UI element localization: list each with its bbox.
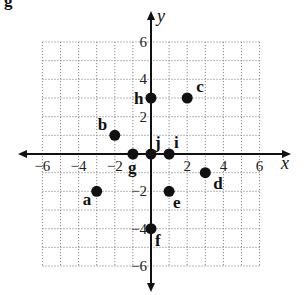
point-label-d: d <box>213 174 223 193</box>
y-tick-label: −4 <box>131 221 147 237</box>
cut-off-header-text: g <box>4 0 13 10</box>
point-b <box>109 130 120 141</box>
x-axis-label: x <box>280 153 289 173</box>
y-tick-label: 6 <box>140 34 148 50</box>
y-tick-label: 2 <box>140 109 148 125</box>
x-tick-label: −4 <box>71 158 87 174</box>
x-tick-label: −6 <box>34 158 50 174</box>
point-d <box>200 167 211 178</box>
point-a <box>91 186 102 197</box>
point-label-h: h <box>134 89 144 108</box>
y-tick-label: 4 <box>140 71 148 87</box>
point-label-j: j <box>154 133 161 152</box>
point-c <box>182 92 193 103</box>
point-label-i: i <box>174 133 179 152</box>
point-label-e: e <box>173 193 181 212</box>
point-label-g: g <box>128 158 137 177</box>
point-i <box>164 149 175 160</box>
x-tick-label: 2 <box>183 158 191 174</box>
y-tick-label: −2 <box>131 183 147 199</box>
point-label-c: c <box>196 77 204 96</box>
point-label-b: b <box>98 115 107 134</box>
y-axis-label: y <box>155 6 165 26</box>
y-tick-label: −6 <box>131 258 147 274</box>
y-axis-bottom-arrow-icon <box>147 283 155 292</box>
data-points: abcdefghij <box>83 77 224 250</box>
point-label-f: f <box>155 231 161 250</box>
x-tick-label: 6 <box>256 158 264 174</box>
coordinate-plane: g x y −6−4−2246642−2−4−6 abcdefghij <box>0 0 307 295</box>
y-axis-top-arrow-icon <box>147 11 155 20</box>
x-axis-left-arrow-icon <box>18 150 27 158</box>
point-label-a: a <box>83 190 92 209</box>
x-tick-label: −2 <box>107 158 123 174</box>
point-h <box>146 92 157 103</box>
x-tick-label: 4 <box>220 158 228 174</box>
